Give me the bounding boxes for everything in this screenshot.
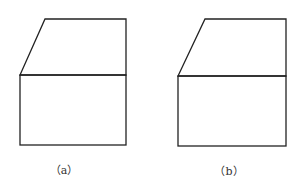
figure-b-caption: （b） (214, 162, 243, 178)
figure-b-trapezoid-top (178, 19, 286, 76)
figure-a-caption: （a） (50, 161, 79, 177)
figure-a-shape (20, 19, 126, 145)
figure-b-rectangle-bottom (178, 76, 286, 146)
figure-b-shape (178, 19, 286, 146)
figure-a-rectangle-bottom (20, 75, 126, 145)
diagram-canvas (0, 0, 303, 187)
figure-a-trapezoid-top (20, 19, 126, 75)
